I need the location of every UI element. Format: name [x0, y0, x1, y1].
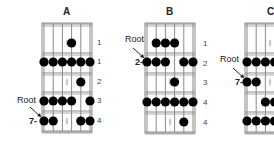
note-dot-icon: [179, 117, 188, 126]
root-label-b: Root: [125, 34, 144, 44]
finger-label-b-1: 1: [203, 39, 207, 48]
fret-marker-icon: [269, 79, 271, 86]
finger-label-a-4: 3: [97, 96, 101, 105]
finger-label-b-2: 2: [203, 59, 207, 68]
note-dot-icon: [58, 96, 67, 105]
note-dot-icon: [85, 57, 94, 66]
note-dot-icon: [152, 97, 161, 106]
note-dot-icon: [142, 97, 151, 106]
note-dot-icon: [179, 57, 188, 66]
note-dot-icon: [152, 57, 161, 66]
fretboard-grid-a: [0, 0, 274, 145]
note-dot-icon: [39, 57, 48, 66]
fret-marker-icon: [169, 119, 171, 126]
fretboard-border: [42, 23, 92, 132]
fret-marker-icon: [66, 118, 68, 125]
root-label-c: Root: [220, 54, 239, 64]
start-fret-a: 7-: [29, 116, 37, 126]
note-dot-icon: [49, 96, 58, 105]
fretboard-border: [145, 23, 195, 133]
start-fret-c: 7-: [235, 77, 243, 87]
diagram-title-b: B: [166, 6, 173, 17]
note-dot-icon: [142, 57, 151, 66]
note-dot-icon: [67, 38, 76, 47]
note-dot-icon: [242, 116, 251, 125]
note-dot-icon: [188, 97, 197, 106]
diagram-title-c: C: [267, 6, 274, 17]
note-dot-icon: [161, 97, 170, 106]
note-dot-icon: [252, 77, 261, 86]
note-dot-icon: [76, 77, 85, 86]
note-dot-icon: [85, 96, 94, 105]
note-dot-icon: [270, 116, 274, 125]
note-dot-icon: [261, 116, 270, 125]
note-dot-icon: [58, 57, 67, 66]
finger-label-a-1: 1: [97, 38, 101, 47]
note-dot-icon: [188, 57, 197, 66]
finger-label-b-3: 3: [203, 78, 207, 87]
note-dot-icon: [242, 57, 251, 66]
fret-marker-icon: [269, 40, 271, 47]
note-dot-icon: [270, 57, 274, 66]
finger-label-a-2: 1: [97, 57, 101, 66]
note-dot-icon: [39, 96, 48, 105]
note-dot-icon: [85, 116, 94, 125]
note-dot-icon: [49, 116, 58, 125]
note-dot-icon: [152, 38, 161, 47]
note-dot-icon: [76, 116, 85, 125]
note-dot-icon: [252, 116, 261, 125]
note-dot-icon: [270, 97, 274, 106]
finger-label-a-3: 2: [97, 77, 101, 86]
note-dot-icon: [242, 77, 251, 86]
note-dot-icon: [67, 57, 76, 66]
note-dot-icon: [170, 77, 179, 86]
note-dot-icon: [261, 97, 270, 106]
note-dot-icon: [179, 97, 188, 106]
note-dot-icon: [161, 38, 170, 47]
note-dot-icon: [39, 116, 48, 125]
fret-marker-icon: [66, 79, 68, 86]
fretboard-border: [245, 23, 274, 133]
note-dot-icon: [261, 57, 270, 66]
finger-label-b-5: 4: [203, 118, 207, 127]
start-fret-b: 2-: [135, 57, 143, 67]
note-dot-icon: [49, 57, 58, 66]
note-dot-icon: [170, 97, 179, 106]
note-dot-icon: [76, 57, 85, 66]
note-dot-icon: [67, 96, 76, 105]
finger-label-a-5: 4: [97, 116, 101, 125]
root-label-a: Root: [17, 95, 36, 105]
note-dot-icon: [170, 38, 179, 47]
note-dot-icon: [252, 57, 261, 66]
note-dot-icon: [161, 57, 170, 66]
finger-label-b-4: 4: [203, 98, 207, 107]
